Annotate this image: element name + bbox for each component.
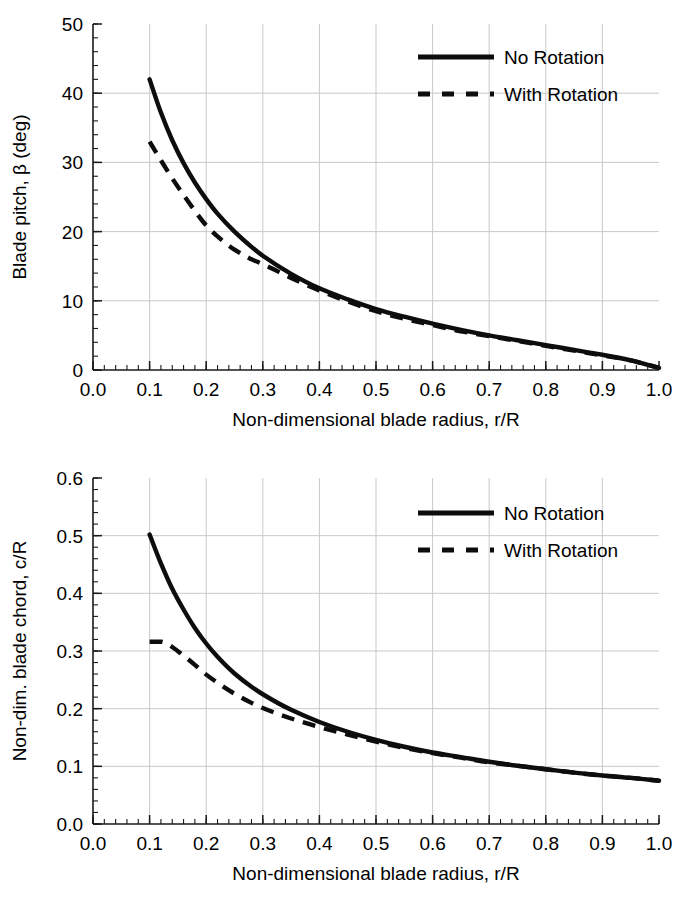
x-axis-tick-label: 0.2 [193,833,219,854]
series-group [150,535,659,781]
x-axis-tick-label: 1.0 [646,833,672,854]
x-axis-tick-label: 0.0 [80,833,106,854]
x-axis-tick-label: 0.1 [136,833,162,854]
chart-panel-blade-pitch: 0.00.10.20.30.40.50.60.70.80.91.00102030… [0,0,686,456]
x-axis-tick-label: 0.7 [476,833,502,854]
x-axis-tick-label: 0.1 [136,379,162,400]
y-axis-tick-label: 0.3 [57,641,83,662]
x-axis-tick-label: 0.7 [476,379,502,400]
blade-pitch-chart: 0.00.10.20.30.40.50.60.70.80.91.00102030… [0,0,686,456]
x-axis-tick-label: 0.8 [533,833,559,854]
x-axis-tick-label: 0.4 [306,379,333,400]
legend-label: With Rotation [504,540,618,561]
x-axis-tick-label: 0.5 [363,379,389,400]
x-axis-tick-label: 0.9 [589,833,615,854]
series-line-with-rotation [150,142,659,368]
y-axis-tick-label: 0 [72,360,83,381]
y-axis-title: Non-dim. blade chord, c/R [9,541,30,762]
y-axis-tick-label: 10 [62,291,83,312]
x-axis-tick-label: 0.3 [250,833,276,854]
tick-labels: 0.00.10.20.30.40.50.60.70.80.91.00102030… [62,14,672,400]
y-axis-title: Blade pitch, β (deg) [9,114,30,279]
x-axis-tick-label: 0.9 [589,379,615,400]
y-axis-tick-label: 50 [62,14,83,35]
y-axis-tick-label: 0.1 [57,756,83,777]
gridlines [93,24,659,370]
y-axis-tick-label: 0.4 [57,583,84,604]
legend: No RotationWith Rotation [418,47,618,105]
x-axis-tick-label: 0.5 [363,833,389,854]
x-axis-tick-label: 0.6 [419,833,445,854]
x-axis-tick-label: 0.4 [306,833,333,854]
x-axis-title: Non-dimensional blade radius, r/R [232,409,519,430]
x-axis-tick-label: 1.0 [646,379,672,400]
chart-panel-blade-chord: 0.00.10.20.30.40.50.60.70.80.91.00.00.10… [0,456,686,913]
x-axis-title: Non-dimensional blade radius, r/R [232,863,519,884]
series-group [150,79,659,368]
legend-label: With Rotation [504,84,618,105]
tick-labels: 0.00.10.20.30.40.50.60.70.80.91.00.00.10… [57,468,673,854]
x-axis-tick-label: 0.8 [533,379,559,400]
figure-blade-geometry: 0.00.10.20.30.40.50.60.70.80.91.00102030… [0,0,686,913]
y-axis-tick-label: 0.0 [57,814,83,835]
series-line-no-rotation [150,535,659,781]
y-axis-tick-label: 40 [62,83,83,104]
y-axis-tick-label: 0.5 [57,526,83,547]
y-axis-tick-label: 0.6 [57,468,83,489]
legend: No RotationWith Rotation [418,503,618,561]
legend-label: No Rotation [504,47,604,68]
legend-label: No Rotation [504,503,604,524]
y-axis-tick-label: 0.2 [57,699,83,720]
series-line-no-rotation [150,79,659,368]
blade-chord-chart: 0.00.10.20.30.40.50.60.70.80.91.00.00.10… [0,456,686,913]
x-axis-tick-label: 0.6 [419,379,445,400]
y-axis-tick-label: 20 [62,222,83,243]
x-axis-tick-label: 0.2 [193,379,219,400]
y-axis-tick-label: 30 [62,152,83,173]
x-axis-tick-label: 0.0 [80,379,106,400]
x-axis-tick-label: 0.3 [250,379,276,400]
